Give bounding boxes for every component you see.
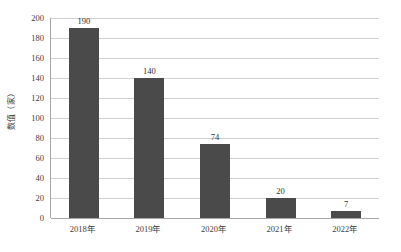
x-axis-tick-label: 2020年: [181, 222, 247, 240]
y-axis-tick-label: 0: [40, 213, 44, 223]
bar-value-label: 190: [77, 16, 90, 26]
y-axis-tick-label: 60: [36, 153, 45, 163]
bar-value-label: 20: [276, 186, 285, 196]
y-axis-tick-label: 120: [31, 93, 44, 103]
bar-slot: 7: [313, 18, 379, 218]
bar-slot: 74: [182, 18, 248, 218]
bar[interactable]: [266, 198, 296, 218]
x-axis-tick-label: 2022年: [312, 222, 378, 240]
bar-value-label: 7: [344, 199, 348, 209]
plot-area: 19014074207: [50, 18, 379, 218]
bar-value-label: 74: [211, 132, 220, 142]
y-axis-title: 数值（家）: [0, 0, 22, 218]
x-axis-tick-label: 2021年: [247, 222, 313, 240]
bar[interactable]: [200, 144, 230, 218]
bar[interactable]: [331, 211, 361, 218]
x-axis-tick-label: 2018年: [50, 222, 116, 240]
bar-slot: 140: [117, 18, 183, 218]
y-axis-tick-label: 200: [31, 13, 44, 23]
y-axis-tick-label: 20: [36, 193, 45, 203]
y-axis-tick-label: 40: [36, 173, 45, 183]
bar[interactable]: [69, 28, 99, 218]
bar-slot: 20: [248, 18, 314, 218]
y-axis-title-label: 数值（家）: [6, 88, 17, 130]
bar[interactable]: [134, 78, 164, 218]
x-axis-tick-labels: 2018年2019年2020年2021年2022年: [50, 222, 378, 240]
y-axis-tick-label: 80: [36, 133, 45, 143]
y-axis-tick-label: 180: [31, 33, 44, 43]
x-axis-tick-label: 2019年: [116, 222, 182, 240]
y-axis-tick-label: 160: [31, 53, 44, 63]
y-axis-tick-labels: 020406080100120140160180200: [20, 18, 47, 218]
bar-value-label: 140: [143, 66, 156, 76]
gridline: [51, 218, 379, 219]
y-axis-tick-label: 140: [31, 73, 44, 83]
bar-slot: 190: [51, 18, 117, 218]
y-axis-tick-label: 100: [31, 113, 44, 123]
bars-layer: 19014074207: [51, 18, 379, 218]
bar-chart: 数值（家） 020406080100120140160180200 190140…: [0, 0, 401, 252]
